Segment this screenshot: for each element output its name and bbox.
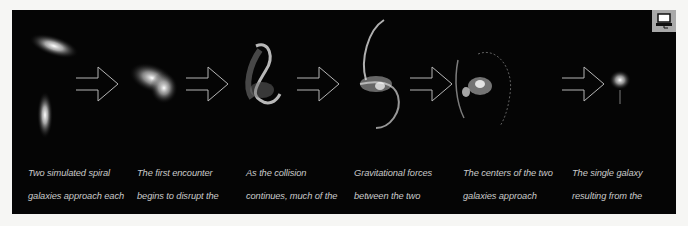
stage-5-galaxies-image bbox=[448, 10, 558, 160]
stage-4-caption: Gravitational forces between the two gal… bbox=[354, 157, 462, 214]
computer-icon bbox=[655, 13, 673, 29]
caption-line: The single galaxy bbox=[572, 168, 676, 179]
stage-6-caption: The single galaxy resulting from the col… bbox=[572, 157, 676, 214]
stage-5-caption: The centers of the two galaxies approach… bbox=[463, 157, 571, 214]
stage-5: The centers of the two galaxies approach… bbox=[448, 10, 558, 214]
stage-3: As the collision continues, much of the … bbox=[230, 10, 340, 214]
computer-badge bbox=[652, 10, 676, 32]
caption-line: galaxies approach bbox=[463, 191, 571, 202]
caption-line: two galaxies and sends bbox=[137, 213, 245, 214]
right-arrow-icon bbox=[295, 66, 341, 102]
stage-1: Two simulated spiral galaxies approach e… bbox=[12, 10, 122, 214]
caption-line: The centers of the two bbox=[463, 168, 571, 179]
stage-4: Gravitational forces between the two gal… bbox=[338, 10, 448, 214]
right-arrow-icon bbox=[74, 66, 120, 102]
caption-line: each other and begin bbox=[463, 213, 571, 214]
right-arrow-icon bbox=[184, 66, 230, 102]
stage-2-caption: The first encounter begins to disrupt th… bbox=[137, 157, 245, 214]
caption-line: galaxies tear out long bbox=[354, 213, 462, 214]
stage-6: The single galaxy resulting from the col… bbox=[560, 10, 676, 214]
caption-line: resulting from the bbox=[572, 191, 676, 202]
caption-line: begins to disrupt the bbox=[137, 191, 245, 202]
stage-6-elliptical-galaxy-image bbox=[560, 10, 676, 160]
caption-line: Gravitational forces bbox=[354, 168, 462, 179]
stage-2: The first encounter begins to disrupt th… bbox=[120, 10, 230, 214]
galaxy-collision-diagram: Two simulated spiral galaxies approach e… bbox=[12, 10, 676, 214]
caption-line: collision and merger is bbox=[572, 213, 676, 214]
caption-line: The first encounter bbox=[137, 168, 245, 179]
caption-line: between the two bbox=[354, 191, 462, 202]
